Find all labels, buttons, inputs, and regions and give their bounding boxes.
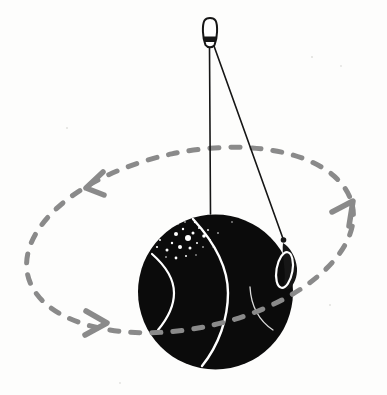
ball bbox=[138, 215, 293, 370]
swing-string bbox=[214, 46, 284, 240]
pendulum-illustration bbox=[0, 0, 387, 395]
path-arrow-bottom-left bbox=[85, 311, 107, 335]
path-arrow-right bbox=[332, 201, 353, 226]
ceiling-hook-icon bbox=[203, 18, 217, 47]
illustration-stage bbox=[0, 0, 387, 395]
vertical-string bbox=[210, 47, 211, 214]
